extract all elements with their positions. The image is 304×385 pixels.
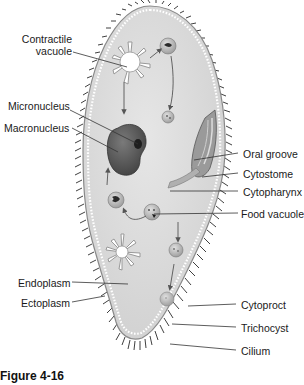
label-cytopharynx: Cytopharynx	[243, 186, 302, 198]
figure-caption: Figure 4-16	[0, 369, 64, 383]
label-contractile-vacuole: Contractile vacuole	[14, 33, 72, 57]
label-contractile-vacuole-line2: vacuole	[14, 45, 72, 57]
label-contractile-vacuole-line1: Contractile	[14, 33, 72, 45]
label-cytostome: Cytostome	[243, 168, 293, 180]
label-endoplasm: Endoplasm	[18, 277, 71, 289]
label-cilium: Cilium	[241, 345, 270, 357]
label-macronucleus: Macronucleus	[4, 122, 69, 134]
label-trichocyst: Trichocyst	[241, 322, 288, 334]
label-micronucleus: Micronucleus	[8, 100, 70, 112]
label-ectoplasm: Ectoplasm	[21, 297, 70, 309]
label-cytoproct: Cytoproct	[241, 299, 286, 311]
paramecium-diagram: Contractile vacuole Micronucleus Macronu…	[0, 0, 304, 385]
label-oral-groove: Oral groove	[243, 148, 298, 160]
label-food-vacuole: Food vacuole	[241, 208, 304, 220]
